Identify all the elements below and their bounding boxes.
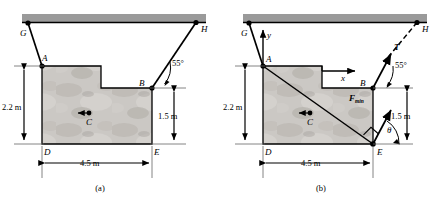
label-point-G: G	[20, 28, 27, 38]
label-point-G: G	[241, 28, 248, 38]
angle-label-55: 55°	[395, 60, 407, 70]
panel-a-svg: G H A B C D E 2.2 m 1.5 m 4.5 m 55° (a)	[0, 0, 221, 200]
point-G-dot	[25, 20, 30, 25]
cable-GA	[28, 23, 42, 66]
label-point-D: D	[43, 147, 51, 157]
label-point-E: E	[153, 147, 160, 157]
label-axis-x: x	[340, 73, 345, 83]
angle-arc-arrow	[165, 80, 170, 86]
label-point-B: B	[360, 78, 366, 88]
block-outline	[42, 66, 152, 144]
label-point-E: E	[376, 147, 383, 157]
cable-GA	[249, 23, 263, 66]
panel-a: G H A B C D E 2.2 m 1.5 m 4.5 m 55° (a)	[0, 0, 221, 200]
dim-label-2-2m: 2.2 m	[223, 102, 243, 112]
label-force-Fmin-sub: min	[355, 98, 364, 104]
label-point-C: C	[86, 117, 93, 127]
dim-label-4-5m: 4.5 m	[301, 158, 321, 168]
label-point-H: H	[421, 24, 429, 34]
angle-label-55: 55°	[172, 58, 184, 68]
dim-label-2-2m: 2.2 m	[2, 102, 22, 112]
label-axis-y: y	[266, 30, 271, 40]
label-point-A: A	[41, 53, 48, 63]
panel-b: G H A B C D E y x T Fmin 2.2 m 1.5 m 4.5…	[221, 0, 442, 200]
panel-b-svg: G H A B C D E y x T Fmin 2.2 m 1.5 m 4.5…	[221, 0, 443, 200]
angle-label-theta: θ	[387, 125, 392, 135]
figure-root: G H A B C D E 2.2 m 1.5 m 4.5 m 55° (a)	[0, 0, 443, 200]
dim-label-1-5m: 1.5 m	[158, 111, 178, 121]
dim-label-1-5m: 1.5 m	[391, 111, 411, 121]
ceiling-hatch	[22, 14, 206, 22]
label-point-D: D	[264, 147, 272, 157]
label-point-H: H	[200, 24, 208, 34]
point-H-dot	[414, 20, 419, 25]
point-H-dot	[193, 20, 198, 25]
label-force-T: T	[394, 42, 400, 52]
panel-b-caption: (b)	[316, 183, 326, 193]
angle-arc-arrow	[387, 82, 393, 88]
label-point-B: B	[139, 78, 145, 88]
panel-a-caption: (a)	[95, 183, 105, 193]
point-G-dot	[246, 20, 251, 25]
label-force-Fmin-main: F	[348, 93, 355, 103]
label-point-A: A	[265, 54, 272, 64]
label-point-C: C	[307, 117, 314, 127]
ceiling-hatch	[243, 14, 427, 22]
dim-label-4-5m: 4.5 m	[80, 158, 100, 168]
cable-BH	[152, 23, 196, 89]
